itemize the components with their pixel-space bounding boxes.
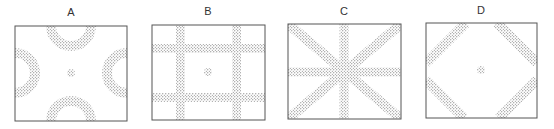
panel-b xyxy=(152,25,265,120)
panel-a-pattern xyxy=(0,6,147,129)
panel-d-pattern xyxy=(426,23,537,118)
panel-a xyxy=(0,6,147,129)
panel-b-pattern xyxy=(152,25,265,120)
panel-c-pattern xyxy=(288,24,401,119)
panel-a-label: A xyxy=(61,6,81,18)
panel-c-label: C xyxy=(334,5,354,17)
panel-b-label: B xyxy=(198,5,218,17)
figure-canvas xyxy=(0,0,554,129)
panel-d-label: D xyxy=(471,4,491,16)
panel-c xyxy=(288,24,401,119)
panel-d xyxy=(426,23,537,118)
